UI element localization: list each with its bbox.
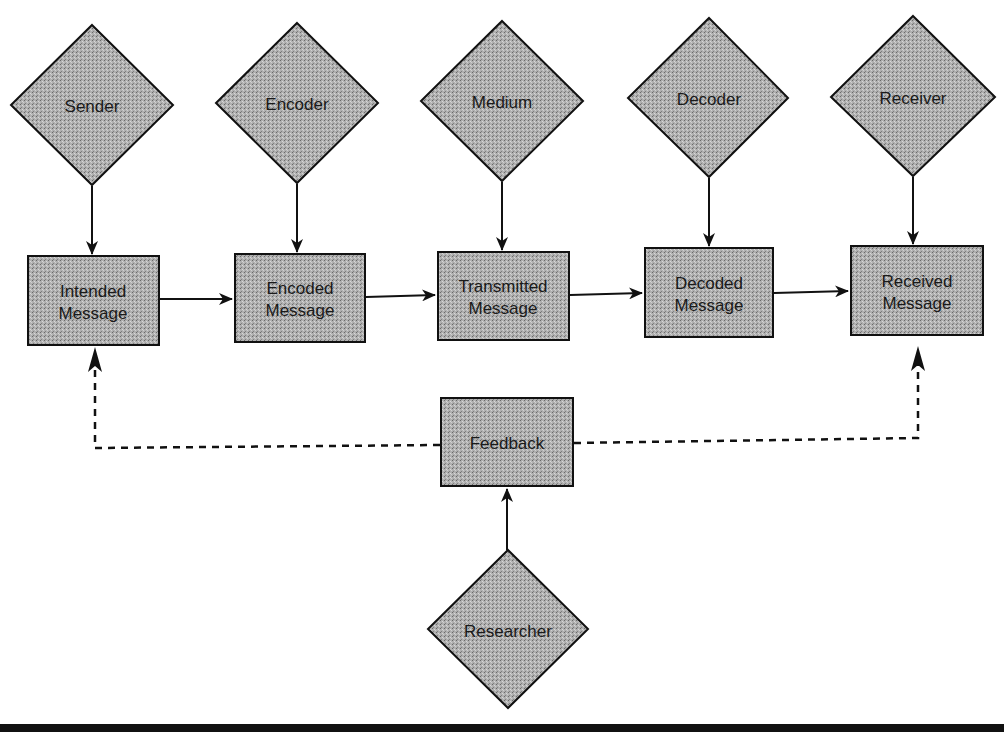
message-transmitted-line1: Transmitted (458, 277, 547, 296)
actor-decoder-label: Decoder (677, 90, 742, 109)
message-encoded-line1: Encoded (266, 279, 333, 298)
message-decoded-line1: Decoded (675, 274, 743, 293)
message-received: Received Message (851, 246, 983, 335)
actor-receiver: Receiver (831, 16, 995, 176)
message-received-line1: Received (882, 272, 953, 291)
message-received-line2: Message (883, 294, 952, 313)
message-intended-line1: Intended (60, 282, 126, 301)
actor-sender-label: Sender (65, 97, 120, 116)
message-transmitted-line2: Message (469, 299, 538, 318)
message-decoded: Decoded Message (645, 248, 773, 337)
actor-encoder: Encoder (216, 23, 378, 183)
message-decoded-line2: Message (675, 296, 744, 315)
feedback-arrowheads (88, 346, 925, 372)
actor-decoder: Decoder (628, 18, 788, 177)
message-encoded-line2: Message (266, 301, 335, 320)
actor-to-message-arrows (92, 177, 913, 254)
message-transmitted: Transmitted Message (438, 252, 569, 340)
actor-receiver-label: Receiver (879, 89, 946, 108)
actor-sender: Sender (11, 25, 173, 185)
message-intended-line2: Message (59, 304, 128, 323)
feedback-label: Feedback (470, 434, 545, 453)
communication-diagram: Sender Encoder Medium Decoder Receiver I… (0, 0, 1004, 732)
actor-medium-label: Medium (472, 93, 532, 112)
actor-medium: Medium (421, 21, 583, 181)
feedback-box: Feedback (441, 398, 573, 486)
actor-encoder-label: Encoder (265, 95, 329, 114)
researcher-label: Researcher (464, 622, 552, 641)
message-encoded: Encoded Message (235, 254, 365, 342)
message-intended: Intended Message (28, 256, 159, 345)
page-bottom-rule (0, 724, 1004, 732)
actor-researcher: Researcher (428, 550, 588, 708)
